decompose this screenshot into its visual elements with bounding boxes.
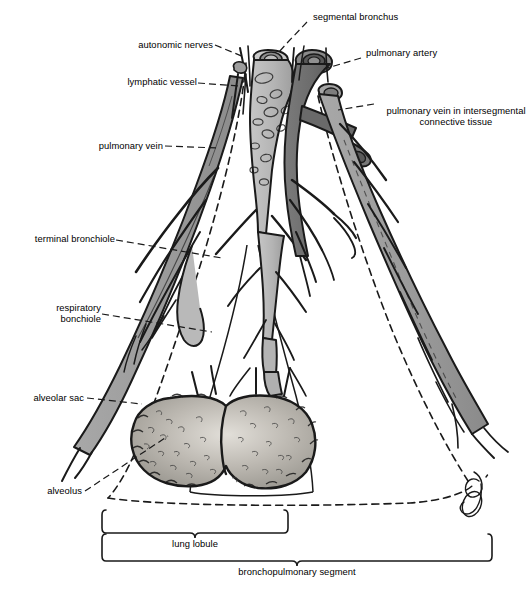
leader-pv-intersegmental [338, 104, 374, 110]
leader-segmental-bronchus [279, 22, 307, 52]
label-terminal-bronchiole: terminal bronchiole [0, 233, 115, 244]
label-alveolus: alveolus [0, 485, 82, 496]
anatomical-figure: segmental bronchus autonomic nerves pulm… [0, 0, 531, 592]
label-pulmonary-artery: pulmonary artery [366, 47, 437, 58]
bracket-label-lung-lobule: lung lobule [102, 538, 288, 549]
label-pulmonary-vein: pulmonary vein [3, 140, 163, 151]
label-pulmonary-vein-intersegmental: pulmonary vein in intersegmental connect… [382, 105, 530, 128]
artist-signature-monogram [459, 472, 488, 519]
bracket-label-bronchopulmonary-segment: bronchopulmonary segment [102, 566, 492, 577]
label-respiratory-bronchiole: respiratory bonchiole [0, 302, 101, 325]
lung-segment-illustration [0, 0, 531, 592]
label-alveolar-sac: alveolar sac [0, 392, 84, 403]
label-segmental-bronchus: segmental bronchus [313, 11, 398, 22]
bracket-lung-lobule [102, 510, 288, 538]
alveolar-sac-cluster [131, 366, 318, 488]
label-lymphatic-vessel: lymphatic vessel [37, 76, 197, 87]
right-pulmonary-vein-intersegmental [319, 84, 508, 458]
label-autonomic-nerves: autonomic nerves [53, 39, 213, 50]
